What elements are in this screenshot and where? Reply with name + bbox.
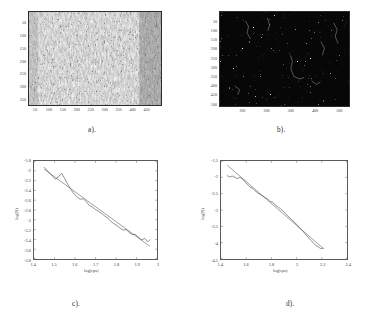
panel-a-xtick: 350 (114, 108, 124, 112)
panel-c-xtick: 1.9 (132, 263, 143, 267)
panel-d-ytick: -4 (204, 242, 218, 246)
panel-d-ytick: -1.5 (204, 159, 218, 163)
panel-b-texture (220, 12, 349, 107)
panel-d-xtick: 2.2 (317, 263, 328, 267)
panel-b-ytick: 50 (207, 20, 217, 24)
panel-d-caption: d). (286, 300, 294, 308)
panel-d: -1.5 -2 -2.5 -3 -3.5 -4 -4.5 1.4 1.6 1.8… (185, 140, 370, 320)
figure-container: 50 100 150 200 250 300 350 50 100 150 20… (0, 0, 370, 320)
panel-c-ytick: -3 (18, 219, 31, 223)
panel-b-ytick: 150 (207, 38, 217, 42)
panel-c-svg (34, 161, 157, 259)
panel-c-ytick: -3.4 (18, 239, 31, 243)
panel-c-ytick: -1.8 (18, 159, 31, 163)
panel-a-ytick: 150 (16, 47, 26, 51)
panel-a-image (28, 11, 162, 106)
panel-c-caption: c). (72, 300, 80, 308)
panel-b-ytick: 350 (207, 75, 217, 79)
panel-a-xtick: 400 (128, 108, 138, 112)
panel-c-ytick: -3.6 (18, 249, 31, 253)
panel-b-caption: b). (277, 126, 285, 134)
panel-c-xtick: 1.5 (49, 263, 60, 267)
panel-a-ytick: 50 (16, 21, 26, 25)
panel-c-xlabel: log(eps) (84, 269, 98, 273)
panel-c-ytick: -2.2 (18, 179, 31, 183)
panel-d-ylabel: log(N) (201, 208, 205, 220)
panel-c-ytick: -2 (18, 169, 31, 173)
panel-b: 50 100 150 200 250 300 350 400 450 500 1… (185, 0, 370, 140)
panel-b-xtick: 300 (286, 109, 296, 113)
panel-a-xtick: 50 (30, 108, 40, 112)
panel-a-caption: a). (88, 126, 96, 134)
panel-d-xtick: 2.4 (343, 263, 354, 267)
panel-d-xtick: 2 (292, 263, 303, 267)
panel-c-ytick: -2.6 (18, 199, 31, 203)
panel-a-ytick: 100 (16, 34, 26, 38)
panel-b-ytick: 250 (207, 57, 217, 61)
panel-c-xtick: 1.4 (28, 263, 39, 267)
panel-c-plot (33, 160, 158, 260)
panel-b-ytick: 450 (207, 93, 217, 97)
panel-c-xtick: 1.6 (69, 263, 80, 267)
panel-a-xtick: 300 (100, 108, 110, 112)
panel-d-xtick: 1.8 (266, 263, 277, 267)
panel-a-ytick: 350 (16, 98, 26, 102)
panel-b-image (219, 11, 350, 107)
panel-a-xtick: 250 (86, 108, 96, 112)
panel-d-svg (221, 161, 347, 259)
panel-b-ytick: 200 (207, 47, 217, 51)
panel-c-xtick: 2 (153, 263, 164, 267)
panel-a-xtick: 150 (58, 108, 68, 112)
panel-b-xtick: 400 (310, 109, 320, 113)
panel-b-ytick: 100 (207, 29, 217, 33)
panel-c-ytick: -2.4 (18, 189, 31, 193)
panel-b-xtick: 500 (334, 109, 344, 113)
panel-d-ytick: -2 (204, 175, 218, 179)
panel-d-ytick: -3 (204, 209, 218, 213)
panel-a-ytick: 250 (16, 72, 26, 76)
panel-c-ytick: -2.8 (18, 209, 31, 213)
panel-d-plot (220, 160, 348, 260)
panel-a-xtick: 200 (72, 108, 82, 112)
panel-b-ytick: 500 (207, 103, 217, 107)
panel-b-xtick: 100 (237, 109, 247, 113)
panel-a-texture (29, 12, 161, 106)
panel-d-xtick: 1.6 (240, 263, 251, 267)
panel-c-xtick: 1.8 (111, 263, 122, 267)
panel-b-ytick: 400 (207, 84, 217, 88)
panel-c-ylabel: log(N) (15, 208, 19, 220)
panel-c: -1.8 -2 -2.2 -2.4 -2.6 -2.8 -3 -3.2 -3.4… (0, 140, 185, 320)
panel-d-xtick: 1.4 (215, 263, 226, 267)
panel-c-xtick: 1.7 (90, 263, 101, 267)
panel-a: 50 100 150 200 250 300 350 50 100 150 20… (0, 0, 185, 140)
panel-d-ytick: -2.5 (204, 192, 218, 196)
panel-d-ytick: -3.5 (204, 225, 218, 229)
panel-b-xtick: 200 (262, 109, 272, 113)
panel-d-xlabel: log(eps) (273, 269, 287, 273)
panel-a-ytick: 200 (16, 60, 26, 64)
panel-c-ytick: -3.2 (18, 229, 31, 233)
panel-a-xtick: 450 (142, 108, 152, 112)
panel-a-xtick: 100 (44, 108, 54, 112)
panel-b-ytick: 300 (207, 66, 217, 70)
panel-a-ytick: 300 (16, 85, 26, 89)
